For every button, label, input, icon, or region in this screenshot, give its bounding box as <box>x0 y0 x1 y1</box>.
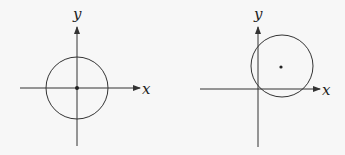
y-axis-label: y <box>72 5 82 23</box>
x-axis-label: x <box>142 80 151 98</box>
diagram-canvas: x y x y <box>0 0 345 155</box>
x-axis-label: x <box>322 81 331 99</box>
center-dot <box>75 86 79 90</box>
left-diagram: x y <box>20 5 151 146</box>
y-axis-label: y <box>253 5 263 23</box>
right-diagram: x y <box>200 5 331 147</box>
center-dot <box>279 65 282 68</box>
